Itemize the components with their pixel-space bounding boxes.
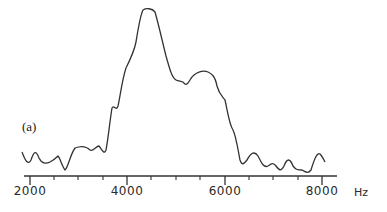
x-tick-label-4000: 4000 [111,184,144,198]
x-tick-label-2000: 2000 [14,184,47,198]
panel-label: (a) [22,119,36,135]
spectrum-curve [22,9,325,173]
spectrum-chart [0,0,387,212]
x-axis-unit-label: Hz [354,186,368,199]
x-tick-label-6000: 6000 [209,184,242,198]
x-tick-label-8000: 8000 [306,184,339,198]
